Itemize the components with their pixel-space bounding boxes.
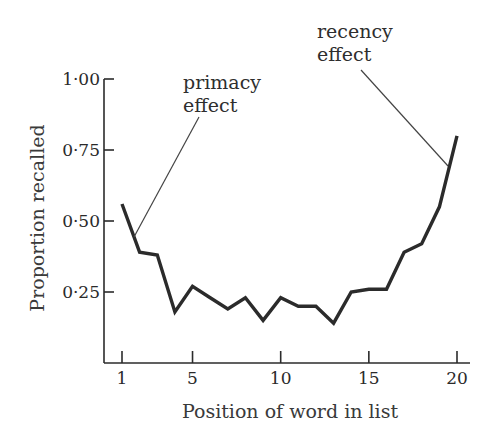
axes [104,79,470,363]
recency-label-line2: effect [317,43,372,65]
primacy-label-line1: primacy [183,71,261,93]
x-axis-title: Position of word in list [182,400,398,422]
x-tick-label: 10 [270,368,292,388]
y-tick-label: 0·50 [62,211,100,231]
x-tick-label: 15 [358,368,380,388]
y-axis-title: Proportion recalled [26,124,48,311]
x-tick-label: 5 [187,368,198,388]
recency-label-line1: recency [317,20,393,42]
primacy-annotation: primacy effect [134,71,261,237]
primacy-label-line2: effect [183,94,238,116]
y-tick-label: 1·00 [62,69,100,89]
serial-position-chart: 0·250·500·751·00 15101520 Position of wo… [0,0,495,442]
recency-leader-line [361,70,448,166]
recency-annotation: recency effect [317,20,448,166]
recall-curve [122,136,457,323]
primacy-leader-line [134,117,199,237]
y-tick-label: 0·75 [62,140,100,160]
y-ticks: 0·250·500·751·00 [62,69,114,302]
y-tick-label: 0·25 [62,282,100,302]
x-tick-label: 1 [117,368,128,388]
x-ticks: 15101520 [117,351,468,388]
x-tick-label: 20 [446,368,468,388]
